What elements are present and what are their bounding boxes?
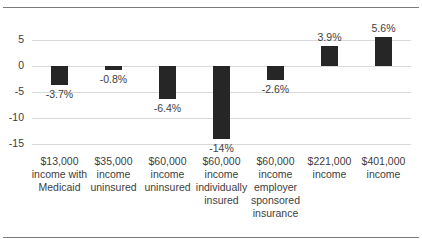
bar bbox=[375, 37, 392, 66]
category-label: $221,000 income bbox=[302, 155, 358, 181]
data-label: -14% bbox=[197, 142, 247, 154]
data-label: 3.9% bbox=[305, 31, 355, 43]
category-label: $60,000 income employer sponsored insura… bbox=[248, 155, 304, 220]
data-label: -0.8% bbox=[89, 73, 139, 85]
y-axis-tick-label: -5 bbox=[0, 85, 24, 97]
category-label: $35,000 income uninsured bbox=[86, 155, 142, 194]
category-label: $401,000 income bbox=[356, 155, 412, 181]
category-label: $60,000 income individually insured bbox=[194, 155, 250, 207]
y-axis-tick-label: 5 bbox=[0, 33, 24, 45]
y-axis-tick-label: -15 bbox=[0, 137, 24, 149]
data-label: 5.6% bbox=[359, 22, 409, 34]
data-label: -3.7% bbox=[35, 88, 85, 100]
bar-chart-plot-area: 50-5-10-15-3.7%$13,000 income with Medic… bbox=[0, 0, 422, 239]
category-label: $60,000 income uninsured bbox=[140, 155, 196, 194]
bar bbox=[321, 46, 338, 66]
category-label: $13,000 income with Medicaid bbox=[32, 155, 88, 194]
bar bbox=[105, 66, 122, 70]
y-axis-tick-label: 0 bbox=[0, 59, 24, 71]
bar bbox=[51, 66, 68, 85]
data-label: -6.4% bbox=[143, 102, 193, 114]
bar bbox=[213, 66, 230, 139]
data-label: -2.6% bbox=[251, 83, 301, 95]
bar bbox=[267, 66, 284, 80]
y-axis-tick-label: -10 bbox=[0, 111, 24, 123]
bar bbox=[159, 66, 176, 99]
